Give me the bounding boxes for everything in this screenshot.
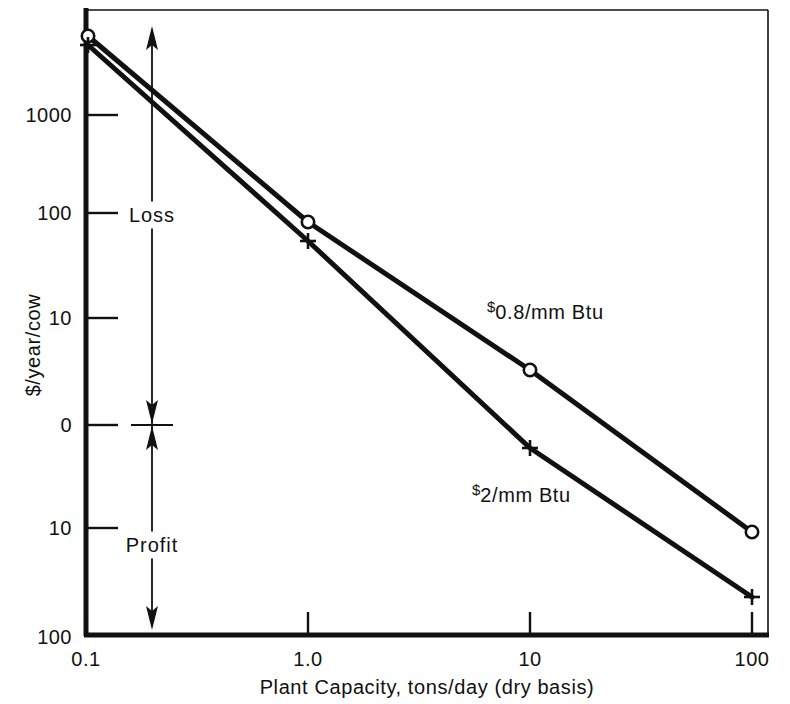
series-2-label-text: 2/mm Btu — [480, 484, 570, 506]
y-axis-ticks — [88, 115, 118, 528]
y-tick-label-neg10: 10 — [0, 517, 72, 540]
series-2-markers — [80, 37, 760, 605]
series-0p8-line — [88, 36, 752, 532]
series-2-mm-btu — [80, 37, 760, 605]
y-tick-label-neg100: 100 — [0, 626, 72, 649]
y-tick-label-1000: 1000 — [0, 104, 72, 127]
x-tick-label-1p0: 1.0 — [293, 648, 322, 671]
y-tick-label-100: 100 — [0, 202, 72, 225]
x-tick-label-0p1: 0.1 — [71, 648, 100, 671]
x-axis-title: Plant Capacity, tons/day (dry basis) — [260, 676, 595, 699]
series-0p8-label: $0.8/mm Btu — [487, 298, 604, 324]
loss-region-label: Loss — [123, 202, 181, 229]
series-0p8-marker — [746, 526, 758, 538]
plot-area — [0, 0, 790, 704]
y-axis-title: $/year/cow — [22, 294, 45, 397]
series-0p8-marker — [524, 364, 536, 376]
series-0p8-mm-btu — [82, 30, 758, 538]
x-tick-label-10: 10 — [518, 648, 541, 671]
series-2-line — [88, 45, 752, 597]
x-axis-ticks — [86, 612, 752, 633]
profit-region-label: Profit — [120, 532, 185, 559]
series-2-label: $2/mm Btu — [472, 481, 571, 507]
series-0p8-marker — [302, 216, 314, 228]
series-0p8-label-text: 0.8/mm Btu — [495, 301, 603, 323]
y-tick-label-0: 0 — [0, 414, 72, 437]
x-tick-label-100: 100 — [735, 648, 770, 671]
chart-figure: 1000 100 10 0 10 100 0.1 1.0 10 100 Plan… — [0, 0, 790, 704]
